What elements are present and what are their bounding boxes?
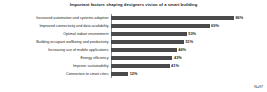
bar-row: Energy efficiency 43% [0, 54, 267, 62]
bar-row: Connection to smart cities 12% [0, 70, 267, 78]
bar-value-label: 41% [171, 64, 179, 68]
bar-value-label: 43% [174, 56, 182, 60]
bar-track: 41% [111, 62, 267, 70]
chart-title: Important factors shaping designers visi… [0, 2, 267, 8]
bar-track: 46% [111, 46, 267, 54]
category-label: Building occupant wellbeing and producti… [0, 40, 111, 44]
bar-row: Building occupant wellbeing and producti… [0, 38, 267, 46]
category-label: Improve sustainability [0, 64, 111, 68]
bar-value-label: 51% [185, 40, 193, 44]
category-label: Optimal indoor environment [0, 32, 111, 36]
bar [111, 32, 187, 37]
bar-value-label: 12% [130, 72, 138, 76]
bar-row: Improved connectivity and data availabil… [0, 22, 267, 30]
category-label: Improved connectivity and data availabil… [0, 24, 111, 28]
bar-track: 12% [111, 70, 267, 78]
sample-size-note: N=97 [254, 85, 263, 89]
category-label: Increasing use of mobile applications [0, 48, 111, 52]
bar [111, 16, 234, 21]
bar-track: 69% [111, 22, 267, 30]
bar-row: Increased automation and systems adaptio… [0, 14, 267, 22]
bar [111, 24, 210, 29]
bar-value-label: 69% [211, 24, 219, 28]
bar-track: 43% [111, 54, 267, 62]
bar [111, 40, 184, 45]
plot-area: Increased automation and systems adaptio… [0, 14, 267, 78]
bar [111, 56, 172, 61]
bar-row: Increasing use of mobile applications 46… [0, 46, 267, 54]
chart-container: Important factors shaping designers visi… [0, 0, 267, 92]
bar-row: Optimal indoor environment 53% [0, 30, 267, 38]
bar-track: 51% [111, 38, 267, 46]
bar-row: Improve sustainability 41% [0, 62, 267, 70]
bar [111, 72, 128, 77]
bar-value-label: 53% [188, 32, 196, 36]
bar [111, 64, 170, 69]
bar-track: 53% [111, 30, 267, 38]
category-label: Energy efficiency [0, 56, 111, 60]
category-label: Increased automation and systems adaptio… [0, 16, 111, 20]
bar-value-label: 86% [235, 16, 243, 20]
bar-value-label: 46% [178, 48, 186, 52]
bar-track: 86% [111, 14, 267, 22]
bar [111, 48, 177, 53]
category-label: Connection to smart cities [0, 72, 111, 76]
